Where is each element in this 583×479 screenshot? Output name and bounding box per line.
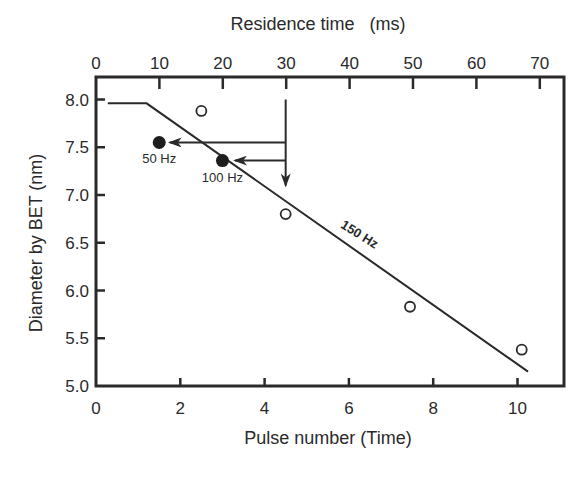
annotation-label: 50 Hz: [142, 151, 176, 166]
open-circle-point: [517, 345, 527, 355]
plot-area: 50 Hz100 Hz150 Hz: [108, 100, 528, 372]
annotations: 50 Hz100 Hz150 Hz: [142, 151, 381, 251]
bottom-axis-tick-labels: 0246810: [91, 399, 527, 418]
x-axis-title: Pulse number (Time): [244, 428, 411, 448]
x-tick-label: 4: [260, 399, 269, 418]
x-tick-label: 10: [508, 399, 527, 418]
y-axis-title: Diameter by BET (nm): [26, 154, 46, 333]
open-circle-point: [196, 106, 206, 116]
x2-tick-label: 50: [404, 54, 423, 73]
left-axis-tick-labels: 5.05.56.06.57.07.58.0: [65, 91, 89, 397]
x2-tick-label: 10: [150, 54, 169, 73]
open-circle-point: [405, 302, 415, 312]
annotation-label: 150 Hz: [338, 217, 381, 252]
open-circle-point: [281, 209, 291, 219]
top-axis-title: Residence time (ms): [230, 14, 405, 34]
y-tick-label: 7.5: [65, 138, 89, 157]
y-tick-label: 6.5: [65, 234, 89, 253]
x-tick-label: 6: [344, 399, 353, 418]
chart: Residence time (ms) 010203040506070 0246…: [0, 0, 583, 479]
x-tick-label: 0: [91, 399, 100, 418]
y-tick-label: 5.0: [65, 377, 89, 396]
x2-tick-label: 30: [277, 54, 296, 73]
x2-tick-label: 0: [91, 54, 100, 73]
x2-tick-label: 20: [213, 54, 232, 73]
top-axis-ticks: [159, 77, 539, 89]
fit-line-150hz: [108, 103, 528, 371]
annotation-label: 100 Hz: [202, 170, 243, 185]
y-tick-label: 7.0: [65, 186, 89, 205]
top-axis-tick-labels: 010203040506070: [91, 54, 549, 73]
y-tick-label: 6.0: [65, 282, 89, 301]
x-tick-label: 8: [428, 399, 437, 418]
filled-circle-point: [216, 154, 229, 167]
x2-tick-label: 60: [467, 54, 486, 73]
x-tick-label: 2: [176, 399, 185, 418]
y-tick-label: 8.0: [65, 91, 89, 110]
x2-tick-label: 40: [340, 54, 359, 73]
filled-circle-point: [153, 136, 166, 149]
x2-tick-label: 70: [530, 54, 549, 73]
y-tick-label: 5.5: [65, 329, 89, 348]
